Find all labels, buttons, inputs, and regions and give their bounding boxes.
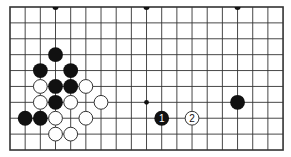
black-stone-disc (33, 63, 48, 78)
black-stone (48, 47, 63, 62)
go-board-diagram: 12 (0, 0, 291, 157)
black-stone (63, 63, 78, 78)
white-stone (33, 95, 47, 109)
move-number-label: 2 (189, 113, 195, 124)
white-stone-disc (79, 111, 93, 125)
white-stone-disc (79, 80, 93, 94)
white-stone-disc (49, 127, 63, 141)
black-stone-disc (33, 111, 48, 126)
white-stone-disc (33, 80, 47, 94)
black-stone-disc (18, 111, 33, 126)
white-stone (79, 111, 93, 125)
black-stone: 1 (154, 111, 169, 126)
white-stone (79, 80, 93, 94)
white-stone-disc (64, 95, 78, 109)
black-stone (18, 111, 33, 126)
white-stone-disc (49, 111, 63, 125)
white-stone (33, 80, 47, 94)
black-stone-disc (48, 95, 63, 110)
black-stone-disc (48, 47, 63, 62)
black-stone (48, 79, 63, 94)
black-stone (230, 95, 245, 110)
white-stone-disc (64, 127, 78, 141)
black-stone (33, 111, 48, 126)
black-stone (48, 95, 63, 110)
black-stone-disc (48, 79, 63, 94)
board-background (0, 0, 291, 157)
black-stone-disc (63, 63, 78, 78)
white-stone (49, 127, 63, 141)
black-stone (33, 63, 48, 78)
black-stone (63, 79, 78, 94)
black-stone-disc (230, 95, 245, 110)
white-stone: 2 (185, 111, 199, 125)
black-stone-disc (63, 79, 78, 94)
white-stone (64, 95, 78, 109)
white-stone-disc (94, 95, 108, 109)
star-point (144, 100, 149, 105)
white-stone (94, 95, 108, 109)
white-stone-disc (33, 95, 47, 109)
white-stone (49, 111, 63, 125)
move-number-label: 1 (159, 113, 165, 124)
white-stone (64, 127, 78, 141)
